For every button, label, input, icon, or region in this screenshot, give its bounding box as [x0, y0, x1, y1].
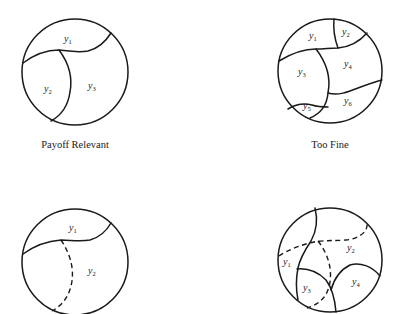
caption-too-fine: Too Fine — [311, 139, 349, 150]
state-space-circle — [278, 208, 382, 312]
panel-mixed: y1 y2 y3 y4 — [278, 208, 382, 312]
partition-diagram: y1 y2 y3 Payoff Relevant y1 y2 y3 y4 y5 … — [0, 0, 399, 314]
region-label-y3: y3 — [87, 80, 96, 92]
region-label-y2: y2 — [43, 83, 52, 95]
state-space-circle — [22, 209, 128, 314]
partition-boundary — [51, 50, 71, 121]
region-label-y4: y4 — [343, 58, 352, 70]
partition-boundary — [328, 80, 382, 94]
state-space-circle — [22, 19, 128, 125]
region-label-y5: y5 — [302, 100, 311, 112]
region-label-y2: y2 — [87, 265, 96, 277]
region-label-y3: y3 — [302, 282, 311, 294]
partition-boundary — [279, 33, 367, 61]
region-label-y1: y1 — [68, 222, 77, 234]
region-label-y1: y1 — [308, 30, 317, 42]
region-label-y1: y1 — [63, 33, 72, 45]
region-label-y1: y1 — [282, 256, 291, 268]
panel-payoff-relevant: y1 y2 y3 Payoff Relevant — [22, 19, 128, 150]
region-label-y2: y2 — [346, 242, 355, 254]
panel-too-fine: y1 y2 y3 y4 y5 y6 Too Fine — [278, 19, 382, 150]
region-label-y4: y4 — [351, 276, 360, 288]
partition-boundary — [334, 19, 338, 48]
region-label-y2: y2 — [341, 26, 350, 38]
dashed-boundary — [52, 240, 72, 311]
region-label-y6: y6 — [343, 95, 352, 107]
region-label-y3: y3 — [297, 66, 306, 78]
caption-payoff-relevant: Payoff Relevant — [41, 139, 109, 150]
panel-coarse: y1 y2 — [22, 209, 128, 314]
